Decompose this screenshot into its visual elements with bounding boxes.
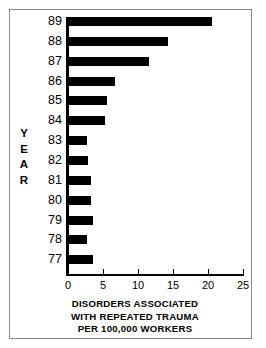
value-axis-tick bbox=[138, 269, 139, 275]
value-axis-tick-label: 10 bbox=[123, 279, 153, 291]
value-axis-tick bbox=[68, 269, 69, 275]
value-axis-tick-label: 0 bbox=[53, 279, 83, 291]
value-axis-tick bbox=[173, 269, 174, 275]
bar bbox=[68, 136, 87, 145]
bar bbox=[68, 96, 107, 105]
value-axis-tick bbox=[243, 269, 244, 275]
value-axis-tick bbox=[103, 269, 104, 275]
category-tick-label: 83 bbox=[36, 133, 62, 147]
chart-title-line: DISORDERS ASSOCIATED bbox=[40, 298, 230, 311]
value-axis-tick-label: 5 bbox=[88, 279, 118, 291]
value-axis-tick-label: 15 bbox=[158, 279, 188, 291]
bar-row: 89 bbox=[0, 17, 266, 35]
bar bbox=[68, 57, 149, 66]
bar-row: 87 bbox=[0, 57, 266, 75]
bar-row: 85 bbox=[0, 96, 266, 114]
bar-row: 78 bbox=[0, 235, 266, 253]
bar-chart-plot-area: Y E A R 89888786858483828180797877 05101… bbox=[0, 0, 266, 348]
category-tick-label: 80 bbox=[36, 193, 62, 207]
bar bbox=[68, 216, 93, 225]
category-tick-label: 89 bbox=[36, 14, 62, 28]
bar-row: 80 bbox=[0, 196, 266, 214]
category-tick-label: 86 bbox=[36, 74, 62, 88]
bar bbox=[68, 176, 91, 185]
category-tick-label: 81 bbox=[36, 173, 62, 187]
category-tick-label: 79 bbox=[36, 213, 62, 227]
bar-row: 88 bbox=[0, 37, 266, 55]
category-tick-label: 84 bbox=[36, 113, 62, 127]
chart-figure: Y E A R 89888786858483828180797877 05101… bbox=[0, 0, 266, 348]
bar-row: 82 bbox=[0, 156, 266, 174]
category-tick-label: 77 bbox=[36, 252, 62, 266]
category-tick-label: 78 bbox=[36, 232, 62, 246]
bar bbox=[68, 156, 88, 165]
bar bbox=[68, 77, 115, 86]
chart-title: DISORDERS ASSOCIATED WITH REPEATED TRAUM… bbox=[40, 298, 230, 336]
value-axis-tick-label: 25 bbox=[228, 279, 258, 291]
bar-row: 84 bbox=[0, 116, 266, 134]
chart-title-line: WITH REPEATED TRAUMA bbox=[40, 311, 230, 324]
value-axis-line bbox=[66, 274, 244, 276]
bar-row: 86 bbox=[0, 77, 266, 95]
category-tick-label: 82 bbox=[36, 153, 62, 167]
chart-title-line: PER 100,000 WORKERS bbox=[40, 323, 230, 336]
bar bbox=[68, 235, 87, 244]
value-axis-tick-label: 20 bbox=[193, 279, 223, 291]
bar bbox=[68, 196, 91, 205]
category-tick-label: 88 bbox=[36, 34, 62, 48]
bar bbox=[68, 255, 93, 264]
bar-row: 77 bbox=[0, 255, 266, 273]
bar-row: 81 bbox=[0, 176, 266, 194]
value-axis-tick bbox=[208, 269, 209, 275]
bar bbox=[68, 17, 212, 26]
bar bbox=[68, 116, 105, 125]
bar bbox=[68, 37, 168, 46]
category-tick-label: 85 bbox=[36, 93, 62, 107]
bar-row: 79 bbox=[0, 216, 266, 234]
category-tick-label: 87 bbox=[36, 54, 62, 68]
bar-row: 83 bbox=[0, 136, 266, 154]
